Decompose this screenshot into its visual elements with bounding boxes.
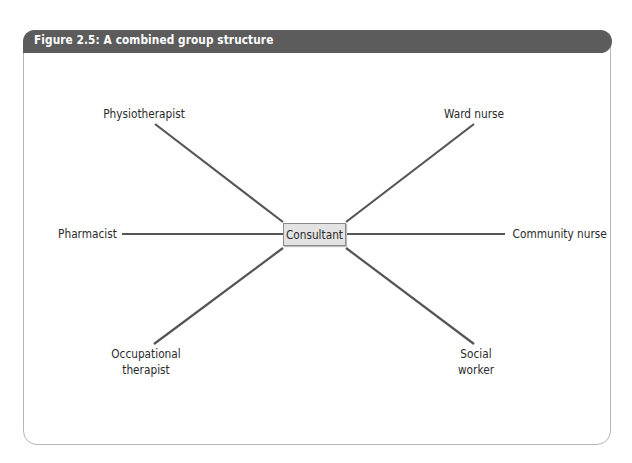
node-occupational-therapist-line1: Occupational	[106, 346, 187, 362]
node-consultant-label: Consultant	[286, 228, 343, 242]
node-ward-nurse: Ward nurse	[441, 106, 508, 122]
edge-physiotherapist	[155, 124, 283, 222]
node-social-worker-line1: Social	[450, 346, 503, 362]
node-consultant: Consultant	[283, 223, 346, 246]
node-pharmacist: Pharmacist	[58, 226, 118, 242]
node-occupational-therapist-line2: therapist	[106, 362, 187, 378]
edge-occupational-therapist	[154, 248, 283, 344]
node-social-worker-line2: worker	[450, 362, 503, 378]
node-physiotherapist: Physiotherapist	[102, 106, 186, 122]
edge-ward-nurse	[346, 124, 474, 222]
edge-social-worker	[346, 248, 474, 344]
node-community-nurse: Community nurse	[513, 226, 610, 242]
